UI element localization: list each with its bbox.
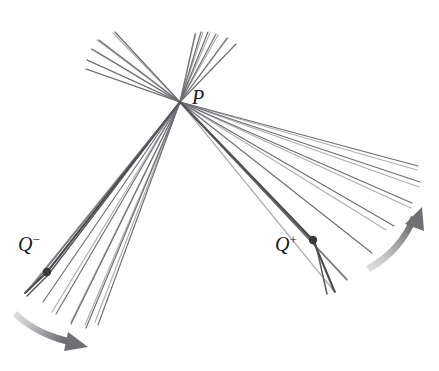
ray-lower-left-fan-4 bbox=[71, 102, 180, 322]
ray-lower-right-3 bbox=[180, 102, 394, 226]
right-motion-arrow bbox=[366, 207, 424, 272]
point-marker-q-minus bbox=[43, 268, 51, 276]
ray-diagram-figure: P Q− Q+ bbox=[0, 0, 439, 371]
ray-lower-right-fan-6 bbox=[180, 102, 417, 170]
label-point-q-plus-sup: + bbox=[289, 232, 296, 247]
label-point-p-base: P bbox=[192, 86, 204, 108]
ray-geometry-layer bbox=[26, 32, 419, 325]
ray-lower-left-fan-3 bbox=[52, 102, 180, 312]
ray-upper-left-fan-4 bbox=[97, 40, 180, 102]
label-point-p: P bbox=[192, 86, 204, 109]
left-motion-arrow-head bbox=[64, 332, 88, 351]
ray-lower-left-2 bbox=[43, 102, 180, 302]
ray-lower-right-4 bbox=[180, 102, 412, 203]
ray-lower-left-3 bbox=[56, 102, 180, 314]
ray-lower-left-fan-5 bbox=[85, 102, 180, 325]
ray-diagram-canvas bbox=[0, 0, 439, 371]
ray-lower-right-fan-1 bbox=[180, 102, 334, 291]
label-point-q-minus-sup: − bbox=[32, 232, 39, 247]
bold-ray-secondary-q-plus bbox=[180, 102, 327, 294]
label-point-q-plus: Q+ bbox=[275, 233, 297, 256]
label-point-q-minus-base: Q bbox=[18, 233, 32, 255]
point-marker-q-plus bbox=[309, 236, 317, 244]
ray-group-lower-left bbox=[30, 102, 180, 328]
ray-lower-right-fan-5 bbox=[180, 102, 419, 187]
label-point-q-plus-base: Q bbox=[275, 233, 289, 255]
ray-group-lower-right bbox=[180, 102, 420, 280]
ray-lower-left-fan-6 bbox=[95, 102, 180, 322]
left-motion-arrow bbox=[13, 311, 88, 351]
label-point-q-minus: Q− bbox=[18, 233, 40, 256]
left-motion-arrow-shaft bbox=[13, 311, 74, 346]
ray-lower-right-5 bbox=[180, 102, 420, 182]
